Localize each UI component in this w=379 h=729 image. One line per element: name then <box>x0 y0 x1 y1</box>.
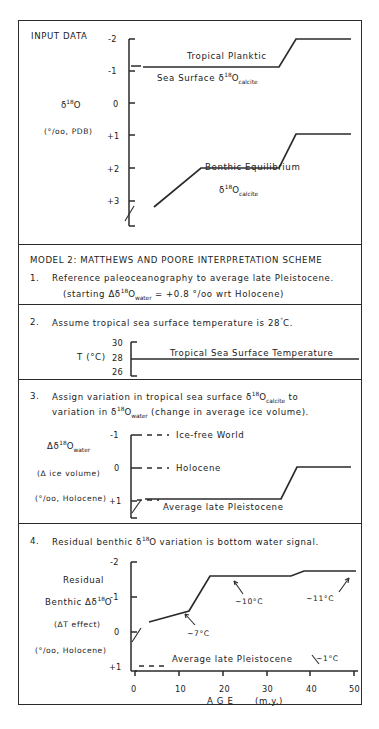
panel-residual: 4. Residual benthic δ18O variation is bo… <box>19 523 361 704</box>
ice-volume-plot <box>19 380 363 524</box>
arrow-10c <box>234 581 243 594</box>
temperature-plot <box>19 305 363 380</box>
curve-residual-benthic <box>149 571 356 622</box>
input-data-plot <box>19 21 363 244</box>
x-axis-title: A G E <box>207 696 233 706</box>
curve-benthic-equilibrium <box>154 134 351 207</box>
arrow-1c <box>312 655 319 664</box>
curve-tropical-planktic <box>143 39 351 67</box>
model-heading: MODEL 2: MATTHEWS AND POORE INTERPRETATI… <box>30 255 322 265</box>
panel-temperature: 2. Assume tropical sea surface temperatu… <box>19 304 361 379</box>
model-item1-number: 1. <box>30 273 39 283</box>
arrow-11c <box>339 578 349 592</box>
figure-container: INPUT DATA δ18O (°/oo, PDB) -2 -1 0 +1 +… <box>18 20 362 705</box>
panel-model-text: MODEL 2: MATTHEWS AND POORE INTERPRETATI… <box>19 244 361 304</box>
panel-ice-volume: 3. Assign variation in tropical sea surf… <box>19 379 361 523</box>
x-axis-units: (m.y.) <box>255 696 283 706</box>
arrow-7c <box>185 614 195 625</box>
panel-input-data: INPUT DATA δ18O (°/oo, PDB) -2 -1 0 +1 +… <box>19 21 361 244</box>
model-item1-text: Reference paleoceanography to average la… <box>52 273 334 283</box>
residual-plot <box>19 524 363 705</box>
curve-ice-volume <box>145 467 351 499</box>
model-item1-subtext: (starting Δδ18Owater = +0.8 °/oo wrt Hol… <box>63 288 284 301</box>
